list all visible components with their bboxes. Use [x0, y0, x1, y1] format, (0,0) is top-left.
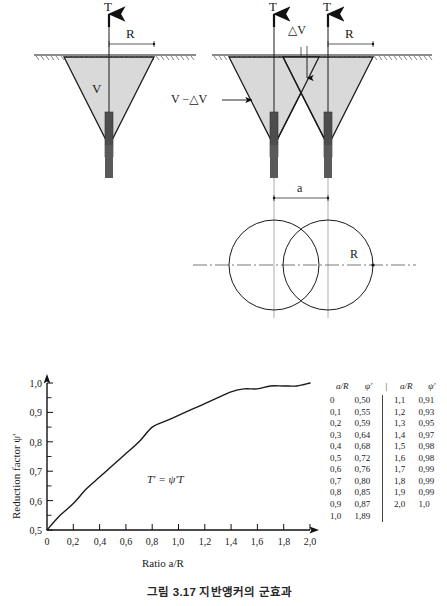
y-tick-label-5: 1,0	[12, 378, 42, 389]
cell-divider	[382, 395, 390, 407]
cell-psi-left: 0,64	[354, 430, 382, 442]
table-header-row: a/R ψ' | a/R ψ'	[329, 381, 445, 395]
label-radius-single: R	[126, 27, 135, 40]
label-force-single: T	[104, 0, 112, 13]
cell-ar-left: 0,6	[329, 464, 354, 476]
spacing-endpoint-2	[327, 197, 329, 199]
cell-psi-right: 0,93	[419, 407, 445, 419]
cell-psi-left: 0,87	[354, 499, 382, 511]
cell-ar-left: 0	[329, 395, 354, 407]
table-row: 0,6 0,76 1,7 0,99	[329, 464, 445, 476]
chart-x-arrowhead	[310, 527, 320, 534]
table-row: 0,3 0,64 1,4 0,97	[329, 430, 445, 442]
chart-annotation-formula: T' = ψ'T	[147, 473, 184, 485]
group-anchor-diagram	[212, 14, 432, 178]
radius-endpoint-plan	[371, 263, 374, 266]
plan-view-circles	[193, 178, 416, 318]
chart-x-ticks	[73, 524, 310, 530]
dim-endpoint-left	[153, 43, 155, 45]
label-radius-group: R	[345, 27, 354, 40]
cell-divider	[382, 453, 390, 465]
x-tick-label-0: 0	[37, 536, 57, 547]
cell-psi-left: 1,89	[354, 511, 382, 523]
table-row: 0,2 0,59 1,3 0,95	[329, 418, 445, 430]
label-force-group-left: T	[269, 0, 277, 13]
cell-ar-left: 0,8	[329, 487, 354, 499]
cell-divider	[382, 418, 390, 430]
y-tick-label-0: 0,5	[12, 525, 42, 536]
table-divider-header: |	[382, 381, 390, 395]
table-header-ar-left: a/R	[329, 381, 354, 395]
x-tick-label-10: 2,0	[300, 536, 320, 547]
cell-psi-right: 0,95	[419, 418, 445, 430]
cell-ar-right: 1,2	[390, 407, 418, 419]
cell-psi-right: 0,99	[419, 487, 445, 499]
x-tick-label-1: 0,2	[63, 536, 83, 547]
x-tick-label-6: 1,2	[195, 536, 215, 547]
table-row: 0,5 0,72 1,6 0,98	[329, 453, 445, 465]
chart-y-axis-title: Reduction factor ψ'	[10, 434, 22, 519]
cell-psi-left: 0,59	[354, 418, 382, 430]
chart-x-axis-title: Ratio a/R	[142, 557, 184, 569]
cell-ar-left: 1,0	[329, 511, 354, 523]
cell-psi-right: 0,97	[419, 430, 445, 442]
cell-ar-right: 1,3	[390, 418, 418, 430]
table-row: 0,4 0,68 1,5 0,98	[329, 441, 445, 453]
dim-endpoint-right	[372, 43, 374, 45]
cell-ar-left: 0,7	[329, 476, 354, 488]
cell-psi-left: 0,80	[354, 476, 382, 488]
cell-divider	[382, 441, 390, 453]
cell-divider	[382, 464, 390, 476]
cell-divider	[382, 511, 390, 523]
cell-ar-right: 1,1	[390, 395, 418, 407]
cell-ar-right: 1,9	[390, 487, 418, 499]
cell-ar-right: 1,7	[390, 464, 418, 476]
table-row: 0,7 0,80 1,8 0,99	[329, 476, 445, 488]
figure-container: T R V T T R △V V −△V a R 1,0 0,9 0,8 0,7…	[0, 0, 447, 606]
x-tick-label-4: 0,8	[142, 536, 162, 547]
table-row: 0,9 0,87 2,0 1,0	[329, 499, 445, 511]
cell-psi-left: 0,76	[354, 464, 382, 476]
cell-divider	[382, 476, 390, 488]
x-tick-label-3: 0,6	[116, 536, 136, 547]
table-header-ar-right: a/R	[390, 381, 418, 395]
cell-psi-right: 0,98	[419, 453, 445, 465]
cell-psi-left: 0,72	[354, 453, 382, 465]
label-spacing-a: a	[297, 182, 302, 194]
label-radius-plan: R	[350, 248, 358, 260]
cell-psi-right	[419, 511, 445, 523]
cell-ar-left: 0,2	[329, 418, 354, 430]
table-body: 0 0,50 1,1 0,91 0,1 0,55 1,2 0,93 0,2 0,…	[329, 395, 445, 522]
x-tick-label-9: 1,8	[274, 536, 294, 547]
cell-psi-left: 0,55	[354, 407, 382, 419]
cell-ar-right: 1,6	[390, 453, 418, 465]
label-net-volume: V −△V	[171, 93, 207, 105]
cell-ar-right: 1,4	[390, 430, 418, 442]
anchor-rod-group-left	[270, 145, 278, 178]
cell-ar-left: 0,4	[329, 441, 354, 453]
reduction-factor-curve	[47, 383, 310, 530]
table-row: 0 0,50 1,1 0,91	[329, 395, 445, 407]
cell-psi-left: 0,50	[354, 395, 382, 407]
cell-psi-left: 0,68	[354, 441, 382, 453]
cell-ar-right	[390, 511, 418, 523]
label-force-group-right: T	[323, 0, 331, 13]
cell-ar-left: 0,1	[329, 407, 354, 419]
chart-y-arrowhead	[44, 374, 51, 384]
anchor-rod-left	[105, 145, 113, 178]
x-tick-label-7: 1,4	[221, 536, 241, 547]
cell-psi-right: 1,0	[419, 499, 445, 511]
cell-divider	[382, 487, 390, 499]
cell-ar-right: 1,8	[390, 476, 418, 488]
x-tick-label-5: 1,0	[168, 536, 188, 547]
y-tick-label-4: 0,9	[12, 407, 42, 418]
cell-psi-right: 0,91	[419, 395, 445, 407]
cell-ar-left: 0,3	[329, 430, 354, 442]
table-row: 1,0 1,89	[329, 511, 445, 523]
cell-divider	[382, 407, 390, 419]
cell-ar-left: 0,5	[329, 453, 354, 465]
table-row: 0,1 0,55 1,2 0,93	[329, 407, 445, 419]
table-row: 0,8 0,85 1,9 0,99	[329, 487, 445, 499]
cell-psi-right: 0,99	[419, 476, 445, 488]
chart-graphics	[44, 374, 319, 533]
